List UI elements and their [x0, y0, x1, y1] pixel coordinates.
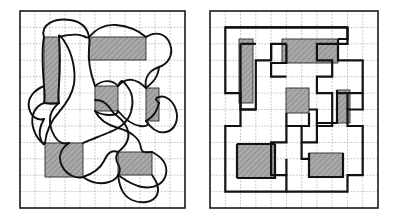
obstacle-bottom-right	[309, 153, 343, 177]
rectilinear-tour-panel	[0, 0, 395, 217]
figure-container: Curved closed tour versus its rectilinea…	[0, 0, 395, 217]
obstacle-center	[286, 88, 309, 113]
obstacle-bottom-left	[237, 144, 275, 178]
